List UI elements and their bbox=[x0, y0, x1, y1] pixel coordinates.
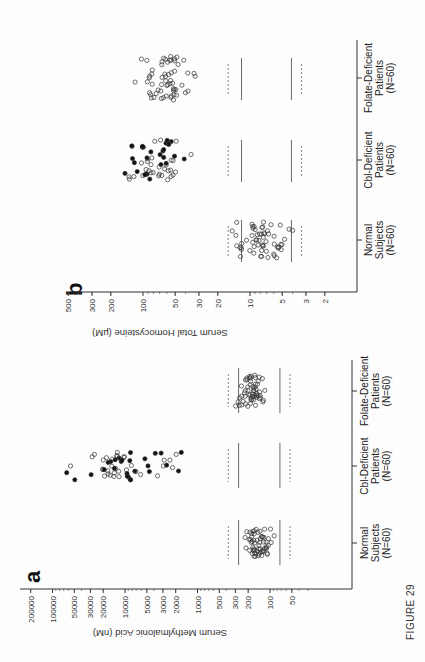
tick-label: 200000 bbox=[27, 595, 36, 622]
data-point-open bbox=[145, 58, 149, 62]
data-point-open bbox=[186, 71, 190, 75]
tick-label: 5 bbox=[278, 298, 287, 303]
b-data-points bbox=[123, 54, 295, 260]
data-point-open bbox=[139, 473, 143, 477]
panel-a-letter: a bbox=[20, 570, 45, 583]
data-point-filled bbox=[106, 460, 110, 464]
data-point-open bbox=[252, 245, 256, 249]
data-point-filled bbox=[120, 458, 124, 462]
data-point-open bbox=[256, 243, 260, 247]
data-point-filled bbox=[172, 154, 176, 158]
data-point-open bbox=[253, 403, 257, 407]
data-point-filled bbox=[89, 473, 93, 477]
svg-text:(N=60): (N=60) bbox=[385, 225, 396, 256]
data-point-open bbox=[272, 534, 276, 538]
data-point-open bbox=[162, 458, 166, 462]
b-cat-label-normal: Normal Subjects (N=60) bbox=[363, 221, 396, 259]
data-point-filled bbox=[176, 469, 180, 473]
data-point-filled bbox=[130, 157, 134, 161]
tick-label: 20 bbox=[214, 298, 223, 307]
data-point-filled bbox=[146, 464, 150, 468]
svg-text:(N=60): (N=60) bbox=[381, 451, 392, 482]
data-point-filled bbox=[102, 468, 106, 472]
data-point-filled bbox=[135, 170, 139, 174]
data-point-open bbox=[269, 540, 273, 544]
svg-text:Patients: Patients bbox=[374, 60, 385, 96]
data-point-filled bbox=[162, 147, 166, 151]
data-point-open bbox=[155, 474, 159, 478]
data-point-open bbox=[263, 527, 267, 531]
data-point-open bbox=[180, 83, 184, 87]
data-point-open bbox=[278, 223, 282, 227]
data-point-open bbox=[243, 535, 247, 539]
tick-label: 500 bbox=[64, 298, 73, 312]
data-point-open bbox=[150, 82, 154, 86]
data-point-open bbox=[159, 138, 163, 142]
svg-text:Folate-Deficient: Folate-Deficient bbox=[363, 43, 374, 113]
data-point-open bbox=[266, 255, 270, 259]
data-point-open bbox=[68, 464, 72, 468]
data-point-open bbox=[174, 139, 178, 143]
data-point-open bbox=[150, 156, 154, 160]
svg-text:Patients: Patients bbox=[370, 448, 381, 484]
svg-text:Folate-Deficient: Folate-Deficient bbox=[359, 356, 370, 426]
data-point-open bbox=[264, 240, 268, 244]
tick-label: 10 bbox=[246, 298, 255, 307]
b-axis-title: Serum Total Homocysteine (µM) bbox=[92, 328, 228, 339]
data-point-open bbox=[150, 68, 154, 72]
tick-label: 50 bbox=[288, 595, 297, 604]
data-point-open bbox=[154, 92, 158, 96]
b-cat-label-cbl: Cbl-Deficient Patients (N=60) bbox=[363, 131, 396, 188]
data-point-open bbox=[129, 463, 133, 467]
data-point-open bbox=[261, 220, 265, 224]
figure-label: FIGURE 29 bbox=[405, 584, 416, 640]
data-point-open bbox=[133, 80, 137, 84]
a-cat-label-cbl: Cbl-Deficient Patients (N=60) bbox=[359, 437, 392, 494]
svg-text:Cbl-Deficient: Cbl-Deficient bbox=[363, 131, 374, 188]
data-point-open bbox=[244, 238, 248, 242]
data-point-filled bbox=[125, 474, 129, 478]
data-point-filled bbox=[162, 155, 166, 159]
b-ticks: 50030020010050302010532 bbox=[64, 292, 330, 312]
data-point-open bbox=[172, 93, 176, 97]
data-point-open bbox=[173, 170, 177, 174]
data-point-filled bbox=[123, 171, 127, 175]
data-point-filled bbox=[65, 471, 69, 475]
data-point-open bbox=[234, 233, 238, 237]
data-point-open bbox=[250, 233, 254, 237]
tick-label: 10000 bbox=[121, 595, 130, 618]
data-point-open bbox=[139, 57, 143, 61]
tick-label: 30 bbox=[195, 298, 204, 307]
data-point-filled bbox=[128, 459, 132, 463]
data-point-filled bbox=[132, 161, 136, 165]
tick-label: 200 bbox=[244, 595, 253, 609]
data-point-filled bbox=[159, 451, 163, 455]
tick-label: 2000 bbox=[172, 595, 181, 613]
data-point-filled bbox=[158, 153, 162, 157]
data-point-open bbox=[235, 220, 239, 224]
a-data-points bbox=[65, 373, 277, 558]
data-point-open bbox=[163, 167, 167, 171]
panel-b: b 50030020010050302010532 Serum Total Ho… bbox=[62, 40, 396, 339]
data-point-open bbox=[193, 74, 197, 78]
svg-text:(N=60): (N=60) bbox=[381, 376, 392, 407]
data-point-filled bbox=[148, 177, 152, 181]
data-point-filled bbox=[73, 478, 77, 482]
data-point-open bbox=[272, 234, 276, 238]
a-axis-title: Serum Methylmalonic Acid (nM) bbox=[93, 628, 227, 639]
a-ticks: 2000001000005000030000200001000050003000… bbox=[27, 589, 308, 623]
svg-text:Patients: Patients bbox=[370, 373, 381, 409]
data-point-open bbox=[149, 163, 153, 167]
tick-label: 20000 bbox=[99, 595, 108, 618]
svg-text:Subjects: Subjects bbox=[370, 524, 381, 562]
svg-text:Normal: Normal bbox=[359, 527, 370, 559]
data-point-open bbox=[174, 452, 178, 456]
data-point-open bbox=[132, 175, 136, 179]
tick-label: 500 bbox=[215, 595, 224, 609]
svg-text:(N=60): (N=60) bbox=[385, 145, 396, 176]
b-cat-label-folate: Folate-Deficient Patients (N=60) bbox=[363, 43, 396, 113]
data-point-open bbox=[145, 80, 149, 84]
a-cat-label-folate: Folate-Deficient Patients (N=60) bbox=[359, 356, 392, 426]
svg-text:Patients: Patients bbox=[374, 142, 385, 178]
data-point-open bbox=[283, 237, 287, 241]
